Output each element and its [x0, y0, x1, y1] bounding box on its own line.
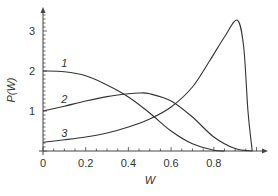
- y-axis-arrow-icon: [41, 7, 46, 13]
- series-group: [43, 20, 252, 151]
- curve-label-1: 1: [61, 57, 67, 69]
- x-axis-title: W: [145, 174, 157, 186]
- y-axis-title: P(W): [5, 77, 17, 102]
- curve-label-3: 3: [61, 127, 68, 139]
- x-axis-arrow-icon: [262, 149, 268, 154]
- x-tick-label: 0.2: [78, 157, 93, 169]
- x-tick-label: 0.8: [206, 157, 221, 169]
- labels: 00.20.40.60.8123123: [29, 25, 222, 169]
- ticks: [43, 15, 257, 151]
- y-tick-label: 3: [29, 25, 35, 37]
- x-tick-label: 0.6: [163, 157, 178, 169]
- curve-3: [43, 20, 252, 151]
- axes: [39, 7, 268, 155]
- x-tick-label: 0: [40, 157, 46, 169]
- curve-label-2: 2: [60, 93, 67, 105]
- curve-2: [43, 93, 252, 151]
- y-tick-label: 2: [29, 65, 35, 77]
- chart: 00.20.40.60.8123123 W P(W): [0, 0, 278, 196]
- x-tick-label: 0.4: [121, 157, 136, 169]
- y-tick-label: 1: [29, 105, 35, 117]
